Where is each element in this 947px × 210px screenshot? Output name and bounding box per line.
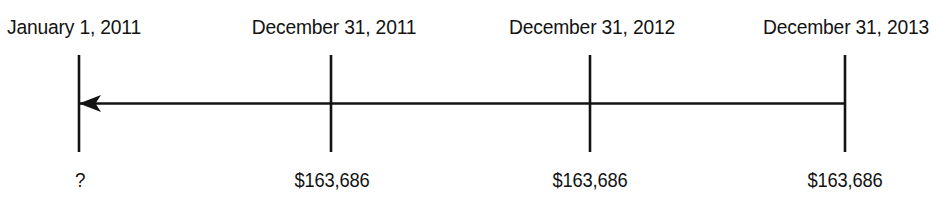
- date-label-december-31-2013: December 31, 2013: [763, 17, 929, 38]
- timeline-diagram: January 1, 2011 December 31, 2011 Decemb…: [0, 0, 947, 210]
- date-label-january-1-2011: January 1, 2011: [7, 17, 141, 38]
- value-label-unknown: ?: [75, 170, 85, 190]
- date-label-december-31-2012: December 31, 2012: [509, 17, 675, 38]
- value-label-2012: $163,686: [553, 171, 628, 191]
- date-label-december-31-2011: December 31, 2011: [252, 17, 417, 38]
- value-label-2013: $163,686: [808, 171, 883, 191]
- value-label-2011: $163,686: [295, 171, 370, 191]
